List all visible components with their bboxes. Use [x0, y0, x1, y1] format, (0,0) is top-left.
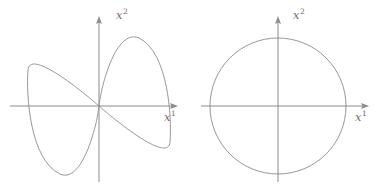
- figure-canvas: x2 x1 x2 x1: [0, 0, 383, 192]
- right-plot-svg: [191, 0, 383, 192]
- left-y-axis: [96, 16, 102, 182]
- right-x-axis: [201, 103, 369, 109]
- right-y-axis-label-sup: 2: [300, 7, 305, 16]
- right-plot-panel: x2 x1: [191, 0, 383, 192]
- left-y-axis-label: x2: [116, 10, 128, 22]
- right-x-axis-label-sup: 1: [362, 109, 367, 118]
- left-x-axis: [10, 103, 178, 109]
- right-y-axis-label-base: x: [293, 8, 300, 22]
- right-y-axis: [275, 16, 281, 182]
- left-y-axis-label-base: x: [116, 8, 123, 22]
- left-x-axis-label-sup: 1: [171, 109, 176, 118]
- right-x-axis-label-base: x: [355, 110, 362, 124]
- left-x-axis-label: x1: [164, 112, 176, 124]
- left-plot-panel: x2 x1: [0, 0, 192, 192]
- right-x-axis-label: x1: [355, 112, 367, 124]
- left-x-axis-label-base: x: [164, 110, 171, 124]
- right-y-axis-label: x2: [293, 10, 305, 22]
- left-y-axis-label-sup: 2: [123, 7, 128, 16]
- left-plot-svg: [0, 0, 192, 192]
